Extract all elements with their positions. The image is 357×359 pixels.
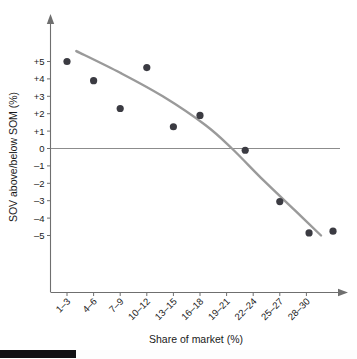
y-tick-label: –4 xyxy=(34,213,45,224)
data-point xyxy=(170,123,177,130)
x-axis-title: Share of market (%) xyxy=(149,333,243,345)
x-tick-label: 22–24 xyxy=(232,296,258,322)
x-tick-label: 19–21 xyxy=(206,296,232,322)
x-tick-label: 28–30 xyxy=(285,296,311,322)
y-tick-label: +1 xyxy=(34,126,45,137)
data-point xyxy=(329,228,336,235)
data-point xyxy=(242,147,249,154)
x-tick-label: 16–18 xyxy=(179,296,205,322)
data-point xyxy=(196,112,203,119)
x-tick-label: 10–12 xyxy=(126,296,152,322)
x-tick-label: 4–6 xyxy=(80,296,99,315)
data-point xyxy=(117,105,124,112)
x-tick-label: 13–15 xyxy=(152,296,178,322)
data-point xyxy=(90,77,97,84)
trend-curve xyxy=(76,51,321,235)
y-axis-arrow xyxy=(47,14,54,24)
y-tick-label: 0 xyxy=(39,143,44,154)
y-axis-title: SOV above/below SOM (%) xyxy=(7,92,19,222)
data-point xyxy=(63,58,70,65)
scatter-chart: +5+4+3+2+10–1–2–3–4–5 1–34–67–910–1213–1… xyxy=(0,0,357,359)
y-tick-label: –1 xyxy=(34,160,45,171)
footer-accent-bar xyxy=(0,350,76,358)
y-axis xyxy=(47,14,54,292)
y-tick-labels: +5+4+3+2+10–1–2–3–4–5 xyxy=(34,56,45,241)
y-tick-label: +4 xyxy=(34,73,45,84)
y-tick-label: +3 xyxy=(34,91,45,102)
x-tick-labels: 1–34–67–910–1213–1516–1819–2122–2425–272… xyxy=(53,296,311,322)
data-point xyxy=(143,64,150,71)
x-tick-label: 25–27 xyxy=(259,296,285,322)
y-tick-label: –3 xyxy=(34,195,45,206)
data-point xyxy=(305,229,312,236)
y-tick-label: –2 xyxy=(34,178,45,189)
x-axis-arrow xyxy=(338,289,348,296)
x-tick-label: 7–9 xyxy=(107,296,126,315)
data-point xyxy=(276,198,283,205)
y-tick-label: +2 xyxy=(34,108,45,119)
y-tick-label: –5 xyxy=(34,230,45,241)
y-tick-label: +5 xyxy=(34,56,45,67)
chart-figure: +5+4+3+2+10–1–2–3–4–5 1–34–67–910–1213–1… xyxy=(0,0,357,359)
x-tick-label: 1–3 xyxy=(53,296,72,315)
